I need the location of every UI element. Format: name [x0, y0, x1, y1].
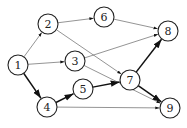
edge-4-to-9: [57, 107, 160, 108]
edge-5-to-7: [93, 82, 120, 87]
edge-6-to-8: [114, 19, 158, 29]
node-label: 6: [101, 11, 108, 24]
node-label: 3: [72, 55, 79, 68]
node-3: 3: [65, 51, 85, 71]
node-9: 9: [160, 98, 180, 118]
node-label: 5: [80, 83, 87, 96]
node-5: 5: [73, 79, 93, 99]
node-7: 7: [120, 70, 140, 90]
edge-2-to-7: [56, 30, 121, 74]
nodes-group: 123456789: [8, 7, 180, 118]
edge-7-to-8: [136, 39, 161, 72]
node-label: 8: [165, 25, 172, 38]
node-8: 8: [158, 21, 178, 41]
node-label: 2: [45, 18, 52, 31]
directed-graph-diagram: 123456789: [0, 0, 187, 128]
node-1: 1: [8, 55, 28, 75]
edge-2-to-6: [58, 18, 94, 22]
node-4: 4: [37, 97, 57, 117]
node-2: 2: [38, 14, 58, 34]
edge-1-to-4: [24, 73, 41, 98]
edge-1-to-2: [24, 32, 42, 56]
node-label: 1: [15, 59, 22, 72]
node-label: 9: [167, 102, 174, 115]
node-6: 6: [94, 7, 114, 27]
node-label: 4: [44, 101, 51, 114]
edge-4-to-5: [56, 94, 74, 103]
edge-3-to-8: [85, 34, 158, 58]
edge-1-to-3: [28, 62, 65, 65]
node-label: 7: [127, 74, 134, 87]
